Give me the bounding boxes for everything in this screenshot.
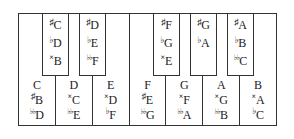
note-letter: G [146, 109, 155, 121]
note-letter: B [35, 94, 43, 106]
white-key-label-stack: G×F♭♭A [166, 77, 202, 122]
note-letter: F [109, 109, 116, 121]
note-label: ♭♭A [177, 107, 191, 122]
note-letter: C [53, 19, 61, 31]
note-letter: C [239, 55, 247, 67]
black-key-a-sharp[interactable]: ♯A♭B♭♭C [227, 13, 254, 76]
white-key-label-stack: F♯E♭♭G [130, 77, 166, 122]
note-letter: A [217, 79, 226, 91]
note-letter: F [144, 79, 151, 91]
note-letter: D [69, 79, 78, 91]
white-key-label-stack: E×D♭F [93, 77, 129, 122]
note-label: C [33, 77, 41, 92]
note-label: ×A [251, 92, 264, 107]
sharp-accidental-icon: ♯ [234, 18, 238, 27]
note-letter: F [92, 55, 99, 67]
note-letter: B [238, 37, 246, 49]
note-label: ♯G [197, 16, 210, 34]
double-flat-accidental-icon: ♭♭ [234, 54, 240, 62]
note-letter: A [256, 94, 265, 106]
white-key-label-stack: A×G♭♭B [203, 77, 239, 122]
note-label: ♭F [105, 107, 115, 122]
note-letter: A [183, 109, 192, 121]
note-letter: E [146, 94, 153, 106]
double-flat-accidental-icon: ♭♭ [214, 108, 220, 116]
black-key-c-sharp[interactable]: ♯C♭D×B [42, 13, 69, 76]
note-letter: E [165, 55, 172, 67]
note-letter: E [107, 79, 114, 91]
double-flat-accidental-icon: ♭♭ [30, 108, 36, 116]
note-label: ♭♭C [234, 52, 248, 70]
note-letter: D [109, 94, 118, 106]
black-key-label-stack: ♯G♭A [191, 16, 216, 52]
black-key-label-stack: ♯C♭D×B [43, 16, 68, 70]
double-flat-accidental-icon: ♭♭ [86, 54, 92, 62]
flat-accidental-icon: ♭ [105, 107, 109, 116]
note-label: ×E [161, 52, 173, 70]
note-label: ♭E [87, 34, 98, 52]
sharp-accidental-icon: ♯ [142, 92, 146, 101]
note-label: ♯D [86, 16, 99, 34]
flat-accidental-icon: ♭ [49, 36, 53, 45]
note-letter: B [254, 79, 262, 91]
double-sharp-accidental-icon: × [104, 93, 109, 101]
note-label: D [69, 77, 78, 92]
note-letter: B [220, 109, 228, 121]
note-letter: D [90, 19, 99, 31]
note-label: ×G [215, 92, 228, 107]
note-label: ♭C [252, 107, 264, 122]
note-letter: D [53, 37, 62, 49]
note-label: ♭D [49, 34, 61, 52]
flat-accidental-icon: ♭ [252, 107, 256, 116]
note-label: B [254, 77, 262, 92]
note-label: ♭♭D [30, 107, 44, 122]
note-label: G [180, 77, 189, 92]
note-label: ♯C [49, 16, 61, 34]
sharp-accidental-icon: ♯ [31, 92, 35, 101]
black-key-label-stack: ♯D♭E♭♭F [80, 16, 105, 70]
double-sharp-accidental-icon: × [251, 93, 256, 101]
sharp-accidental-icon: ♯ [49, 18, 53, 27]
black-key-g-sharp[interactable]: ♯G♭A [190, 13, 217, 76]
note-label: ♭A [197, 34, 209, 52]
double-flat-accidental-icon: ♭♭ [177, 108, 183, 116]
note-label: ♭♭G [140, 107, 154, 122]
note-letter: F [183, 94, 190, 106]
double-sharp-accidental-icon: × [49, 54, 54, 62]
note-label: ♭B [235, 34, 247, 52]
double-flat-accidental-icon: ♭♭ [67, 108, 73, 116]
note-label: ♭♭F [86, 52, 98, 70]
white-key-label-stack: B×A♭C [240, 77, 276, 122]
note-letter: B [54, 55, 62, 67]
note-label: ×D [104, 92, 117, 107]
note-letter: D [35, 109, 44, 121]
white-key-label-stack: D×C♭♭E [56, 77, 92, 122]
note-letter: E [91, 37, 98, 49]
black-key-label-stack: ♯A♭B♭♭C [228, 16, 253, 70]
note-label: ♯A [234, 16, 247, 34]
note-label: A [217, 77, 226, 92]
white-key-label-stack: C♯B♭♭D [19, 77, 55, 122]
black-key-d-sharp[interactable]: ♯D♭E♭♭F [79, 13, 106, 76]
double-sharp-accidental-icon: × [161, 54, 166, 62]
note-letter: A [238, 19, 247, 31]
note-letter: G [201, 19, 210, 31]
note-label: ♭♭B [214, 107, 228, 122]
note-letter: C [33, 79, 41, 91]
note-letter: A [201, 37, 210, 49]
note-letter: G [219, 94, 228, 106]
sharp-accidental-icon: ♯ [161, 18, 165, 27]
note-label: ×F [179, 92, 190, 107]
note-label: ×B [49, 52, 62, 70]
black-key-f-sharp[interactable]: ♯F♭G×E [153, 13, 180, 76]
flat-accidental-icon: ♭ [197, 36, 201, 45]
sharp-accidental-icon: ♯ [86, 18, 90, 27]
piano-keyboard-diagram: C♯B♭♭DD×C♭♭EE×D♭FF♯E♭♭GG×F♭♭AA×G♭♭BB×A♭C… [18, 13, 277, 126]
black-key-label-stack: ♯F♭G×E [154, 16, 179, 70]
note-letter: G [180, 79, 189, 91]
note-letter: C [72, 94, 80, 106]
double-sharp-accidental-icon: × [179, 93, 184, 101]
flat-accidental-icon: ♭ [160, 36, 164, 45]
note-label: ♯E [142, 92, 153, 107]
note-letter: G [164, 37, 173, 49]
